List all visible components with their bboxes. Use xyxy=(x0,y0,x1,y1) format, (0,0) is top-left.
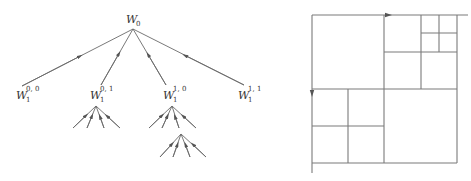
subtree-fan-w1-01 xyxy=(73,106,120,128)
arrow-right-icon xyxy=(385,13,392,17)
svg-text:1: 1 xyxy=(100,96,104,104)
quadtree-partition xyxy=(310,13,468,173)
wavelet-packet-diagram: W 0 W 1 0, 0 W 1 0, 1 W 1 xyxy=(0,0,471,181)
level1-edges xyxy=(22,29,244,86)
svg-text:0, 1: 0, 1 xyxy=(100,85,113,93)
subtree-fan-level3 xyxy=(160,134,206,157)
root-node-label: W 0 xyxy=(126,13,140,28)
decomposition-tree: W 0 W 1 0, 0 W 1 0, 1 W 1 xyxy=(16,13,261,157)
node-label-w1-00: W 1 0, 0 xyxy=(16,85,39,104)
node-label-w1-10: W 1 1, 0 xyxy=(163,85,186,104)
svg-text:1, 1: 1, 1 xyxy=(248,85,261,93)
svg-text:0, 0: 0, 0 xyxy=(26,85,39,93)
svg-text:1: 1 xyxy=(248,96,252,104)
svg-text:0: 0 xyxy=(136,20,140,28)
arrow-icon xyxy=(101,54,119,86)
arrow-icon xyxy=(185,56,244,86)
svg-text:1: 1 xyxy=(173,96,177,104)
node-label-w1-01: W 1 0, 1 xyxy=(90,85,113,104)
node-label-w1-11: W 1 1, 1 xyxy=(238,85,261,104)
svg-text:1, 0: 1, 0 xyxy=(173,85,186,93)
arrow-down-icon xyxy=(310,90,314,97)
svg-text:1: 1 xyxy=(26,96,30,104)
arrow-icon xyxy=(22,56,80,86)
arrow-icon xyxy=(148,55,166,86)
subtree-fan-w1-10 xyxy=(149,106,196,128)
